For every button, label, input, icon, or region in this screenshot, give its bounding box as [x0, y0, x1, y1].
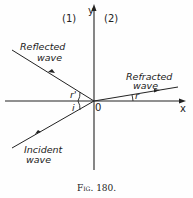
- angle-refraction-arc: [132, 95, 133, 101]
- incident-wave-label-2: wave: [26, 154, 51, 165]
- origin-label: 0: [95, 102, 101, 113]
- angle-reflection-arc: [78, 92, 80, 101]
- reflected-wave-label-2: wave: [37, 52, 62, 63]
- x-axis-label: x: [180, 103, 186, 114]
- angle-reflection-label: r': [70, 89, 77, 100]
- angle-incidence-arc: [78, 101, 80, 110]
- region-1-label: (1): [62, 13, 76, 24]
- figure-caption: Fig. 180.: [77, 183, 116, 193]
- reflected-wave-label-1: Reflected: [20, 41, 66, 52]
- angle-incidence-label: i: [72, 102, 75, 113]
- incident-wave-ray: [12, 101, 94, 148]
- reflected-arrow-icon: [48, 69, 55, 73]
- refraction-diagram: (1) (2) y x 0 Reflected wave Refracted w…: [0, 0, 193, 198]
- angle-refraction-label: r: [135, 90, 140, 101]
- region-2-label: (2): [104, 13, 118, 24]
- y-axis-label: y: [88, 5, 94, 16]
